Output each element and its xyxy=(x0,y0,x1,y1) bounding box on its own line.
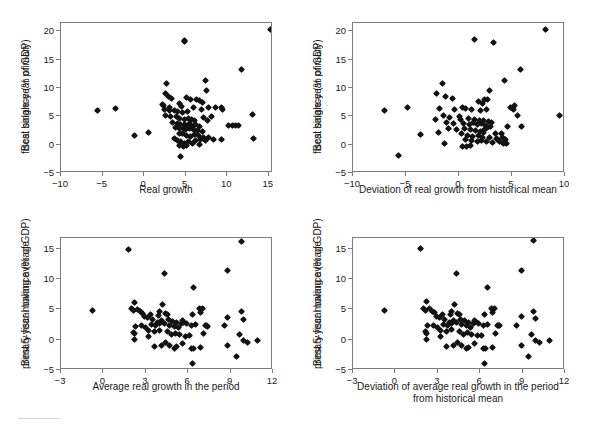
data-point xyxy=(481,360,488,367)
data-point xyxy=(422,328,429,335)
panel-bottom-right-ytick xyxy=(348,308,352,309)
data-point xyxy=(423,298,430,305)
data-point xyxy=(525,353,532,360)
data-point xyxy=(448,320,455,327)
data-point xyxy=(450,342,457,349)
data-point xyxy=(465,319,472,326)
data-point xyxy=(454,339,461,346)
data-point xyxy=(495,322,502,329)
data-point xyxy=(530,238,537,244)
data-point xyxy=(463,322,470,329)
panel-bottom-right-ylabel-line: primary fiscal balance (% of GDP) xyxy=(312,237,325,369)
panel-bottom-right-ytick xyxy=(348,248,352,249)
data-point xyxy=(417,245,424,252)
data-point xyxy=(468,331,475,338)
data-point xyxy=(433,313,440,320)
data-point xyxy=(518,313,525,320)
data-point xyxy=(492,330,499,337)
data-point xyxy=(471,317,478,324)
panel-bottom-right-plot-area xyxy=(352,237,564,369)
panel-bottom-right-ytick xyxy=(348,278,352,279)
data-point xyxy=(464,329,471,336)
data-point xyxy=(430,322,437,329)
data-point xyxy=(453,319,460,326)
data-point xyxy=(458,342,465,349)
data-point xyxy=(463,345,470,352)
data-point xyxy=(472,318,479,325)
data-point xyxy=(528,331,535,338)
data-point xyxy=(532,315,539,322)
panel-bottom-right-xlabel-line: Deviation of average real growth in the … xyxy=(326,381,590,393)
data-point xyxy=(423,330,430,337)
data-point xyxy=(450,317,457,324)
data-point xyxy=(489,309,496,316)
data-point xyxy=(455,311,462,318)
data-point xyxy=(424,322,431,329)
data-point xyxy=(518,342,525,349)
data-point xyxy=(448,308,455,315)
panel-bottom-right-yticklabel: 10 xyxy=(322,273,346,284)
data-point xyxy=(447,311,454,318)
data-point xyxy=(479,345,486,352)
data-point xyxy=(426,305,433,312)
data-point xyxy=(471,340,478,347)
data-point xyxy=(461,317,468,324)
data-point xyxy=(448,326,455,333)
data-point xyxy=(437,333,444,340)
data-point xyxy=(441,316,448,323)
data-point xyxy=(455,328,462,335)
data-point xyxy=(436,314,443,321)
panel-bottom-right-xtick xyxy=(394,369,395,373)
data-point xyxy=(513,322,520,329)
data-point xyxy=(518,267,525,274)
data-point xyxy=(491,305,498,312)
data-point xyxy=(381,307,388,314)
data-point xyxy=(478,332,485,339)
data-point xyxy=(444,322,451,329)
data-point xyxy=(420,305,427,312)
data-point xyxy=(484,283,491,290)
scan-artifact xyxy=(18,418,60,419)
data-point xyxy=(474,332,481,339)
panel-bottom-right-xlabel-line: from historical mean xyxy=(326,393,590,405)
panel-bottom-right-points xyxy=(353,238,563,368)
data-point xyxy=(494,322,501,329)
data-point xyxy=(546,337,553,344)
data-point xyxy=(453,270,460,277)
data-point xyxy=(484,321,491,328)
scatter-figure: −10−5051015−505101520Real growthBest sin… xyxy=(0,0,592,425)
data-point xyxy=(481,311,488,318)
data-point xyxy=(479,322,486,329)
data-point xyxy=(467,323,474,330)
data-point xyxy=(438,311,445,318)
data-point xyxy=(530,308,537,315)
data-point xyxy=(488,305,495,312)
data-point xyxy=(443,343,450,350)
data-point xyxy=(532,337,539,344)
data-point xyxy=(460,331,467,338)
data-point xyxy=(423,336,430,343)
panel-bottom-right-xtick xyxy=(352,369,353,373)
panel-bottom-right-yticklabel: 0 xyxy=(322,333,346,344)
data-point xyxy=(437,327,444,334)
panel-bottom-right-xlabel: Deviation of average real growth in the … xyxy=(326,381,590,405)
panel-bottom-right-yticklabel: 15 xyxy=(322,242,346,253)
panel-bottom-right: −3036912−5051015Deviation of average rea… xyxy=(0,0,592,425)
data-point xyxy=(470,320,477,327)
panel-bottom-right-xtick xyxy=(479,369,480,373)
data-point xyxy=(440,321,447,328)
data-point xyxy=(457,316,464,323)
panel-bottom-right-yticklabel: 5 xyxy=(322,303,346,314)
data-point xyxy=(446,319,453,326)
data-point xyxy=(489,344,496,351)
data-point xyxy=(465,344,472,351)
panel-bottom-right-xtick xyxy=(522,369,523,373)
data-point xyxy=(434,323,441,330)
data-point xyxy=(451,300,458,307)
data-point xyxy=(475,320,482,327)
data-point xyxy=(496,322,503,329)
data-point xyxy=(482,345,489,352)
data-point xyxy=(431,309,438,316)
panel-bottom-right-ytick xyxy=(348,339,352,340)
data-point xyxy=(422,307,429,314)
